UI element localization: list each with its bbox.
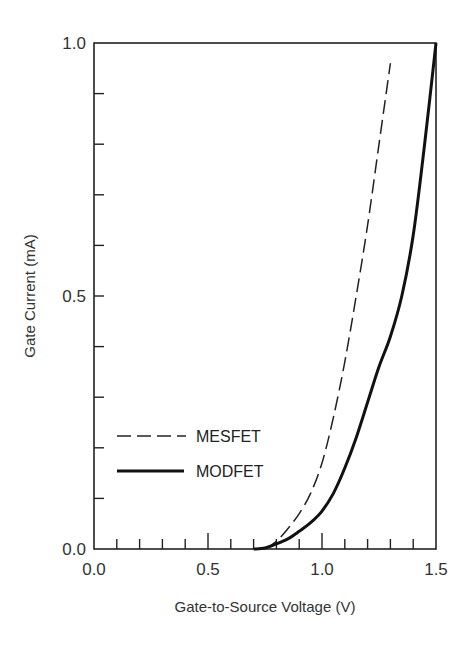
x-tick-label: 0.5 — [196, 560, 220, 579]
legend-label-modfet: MODFET — [196, 463, 264, 480]
series-mesfet-line — [265, 63, 390, 549]
x-tick-label: 1.5 — [424, 560, 448, 579]
y-tick-label: 1.0 — [62, 34, 86, 53]
x-tick-label: 0.0 — [82, 560, 106, 579]
series-modfet-line — [254, 43, 436, 549]
gate-current-chart: 0.00.51.01.5 0.00.51.0 Gate-to-Source Vo… — [0, 0, 460, 651]
y-tick-label: 0.0 — [62, 540, 86, 559]
x-tick-label: 1.0 — [310, 560, 334, 579]
y-axis-ticks: 0.00.51.0 — [62, 34, 104, 559]
x-axis-title: Gate-to-Source Voltage (V) — [175, 598, 356, 615]
y-tick-label: 0.5 — [62, 287, 86, 306]
plot-frame — [94, 43, 436, 549]
legend-label-mesfet: MESFET — [196, 428, 261, 445]
data-series — [254, 43, 436, 549]
x-axis-ticks: 0.00.51.01.5 — [82, 533, 448, 579]
y-axis-title: Gate Current (mA) — [21, 234, 38, 357]
legend: MESFET MODFET — [117, 428, 264, 480]
